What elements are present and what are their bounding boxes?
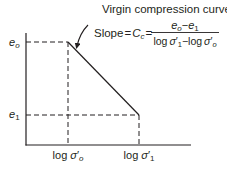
fraction-numerator: eo−e1 (171, 19, 199, 33)
fraction-denominator: logσ′1−logσ′o (153, 35, 216, 49)
y-label-e1: e1 (9, 108, 20, 122)
consolidation-diagram: Virgin compression curve Slope=Cc= eo−e1… (0, 0, 227, 173)
x-label-sigma1: logσ′1 (124, 149, 155, 163)
annotation-title: Virgin compression curve (102, 3, 227, 15)
y-label-eo: eo (9, 36, 20, 50)
pointer-arrow-icon (77, 25, 88, 46)
virgin-compression-line (68, 42, 139, 115)
x-label-sigma0: logσ′o (53, 149, 84, 163)
slope-expression: Slope=Cc= (94, 27, 152, 41)
